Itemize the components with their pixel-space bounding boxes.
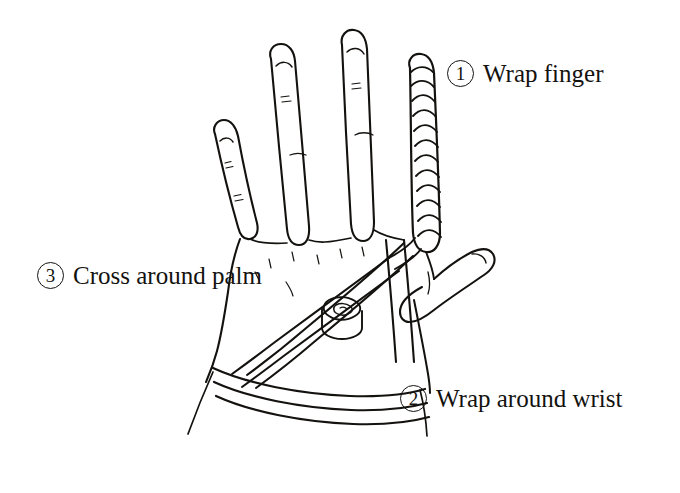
label-marker-2: 2 [400, 385, 427, 412]
label-marker-3: 3 [37, 262, 64, 289]
label-wrap-finger: 1 Wrap finger [447, 60, 603, 87]
label-text-cross-around-palm: Cross around palm [73, 263, 262, 288]
label-marker-1: 1 [447, 60, 474, 87]
label-wrap-around-wrist: 2 Wrap around wrist [400, 385, 622, 412]
label-cross-around-palm: 3 Cross around palm [37, 262, 262, 289]
label-text-wrap-around-wrist: Wrap around wrist [436, 386, 622, 411]
label-text-wrap-finger: Wrap finger [483, 61, 603, 86]
